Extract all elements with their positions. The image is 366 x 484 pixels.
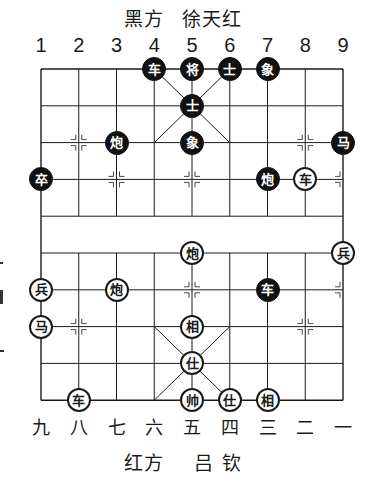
red-piece[interactable]: 炮 [105, 278, 129, 302]
column-chinese-number: 九 [26, 413, 56, 439]
red-player-name: 吕 钦 [194, 448, 241, 475]
red-piece[interactable]: 兵 [29, 278, 53, 302]
black-piece[interactable]: 炮 [105, 131, 129, 155]
red-piece[interactable]: 相 [256, 388, 280, 412]
black-piece[interactable]: 车 [256, 278, 280, 302]
black-piece[interactable]: 士 [218, 57, 242, 81]
column-chinese-number: 三 [253, 413, 283, 439]
edge-fragment [0, 262, 3, 264]
red-piece[interactable]: 兵 [331, 241, 355, 265]
red-piece[interactable]: 仕 [218, 388, 242, 412]
black-piece[interactable]: 炮 [256, 167, 280, 191]
edge-fragment [0, 290, 3, 304]
red-piece[interactable]: 相 [180, 315, 204, 339]
column-chinese-number: 一 [328, 413, 358, 439]
black-piece[interactable]: 象 [256, 57, 280, 81]
column-chinese-number: 八 [64, 413, 94, 439]
red-piece[interactable]: 帅 [180, 388, 204, 412]
column-chinese-number: 五 [177, 413, 207, 439]
column-chinese-number: 二 [290, 413, 320, 439]
red-piece[interactable]: 炮 [180, 241, 204, 265]
column-chinese-number: 六 [139, 413, 169, 439]
red-side-label: 红方 [124, 448, 164, 475]
black-piece[interactable]: 将 [180, 57, 204, 81]
column-chinese-number: 七 [102, 413, 132, 439]
edge-fragment [0, 350, 4, 352]
column-chinese-number: 四 [215, 413, 245, 439]
black-piece[interactable]: 象 [180, 131, 204, 155]
red-side-footer: 红方吕 钦 [0, 448, 366, 475]
red-piece[interactable]: 马 [29, 315, 53, 339]
black-piece[interactable]: 士 [180, 94, 204, 118]
red-piece[interactable]: 车 [67, 388, 91, 412]
black-piece[interactable]: 马 [331, 131, 355, 155]
